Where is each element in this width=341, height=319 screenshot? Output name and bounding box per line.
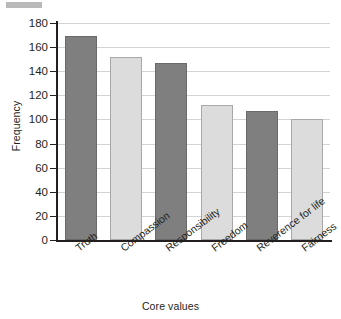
y-axis-tick-label: 80 xyxy=(2,138,48,150)
x-axis-title: Core values xyxy=(0,300,341,312)
y-axis-tick xyxy=(50,216,56,217)
y-axis-tick xyxy=(50,168,56,169)
y-axis-tick-label: 20 xyxy=(2,210,48,222)
y-axis-tick-label: 140 xyxy=(2,65,48,77)
y-axis-tick-label: 160 xyxy=(2,41,48,53)
scan-artifact xyxy=(6,2,42,8)
y-axis-tick xyxy=(50,144,56,145)
plot-area xyxy=(58,23,330,240)
y-axis-tick-label: 180 xyxy=(2,17,48,29)
y-axis-tick xyxy=(50,95,56,96)
y-axis-tick-label: 0 xyxy=(2,234,48,246)
y-axis-tick xyxy=(50,240,56,241)
bar xyxy=(65,36,97,240)
bar-chart-figure: Frequency 020406080100120140160180 Truth… xyxy=(0,0,341,319)
y-axis-tick-label: 40 xyxy=(2,186,48,198)
y-axis-tick xyxy=(50,47,56,48)
y-axis-tick-label: 60 xyxy=(2,162,48,174)
y-axis-tick xyxy=(50,23,56,24)
y-axis-tick-label: 120 xyxy=(2,89,48,101)
y-axis-tick xyxy=(50,192,56,193)
bar xyxy=(110,57,142,240)
y-axis-tick xyxy=(50,71,56,72)
y-axis-tick-label: 100 xyxy=(2,113,48,125)
bar xyxy=(246,111,278,240)
y-axis-tick xyxy=(50,119,56,120)
